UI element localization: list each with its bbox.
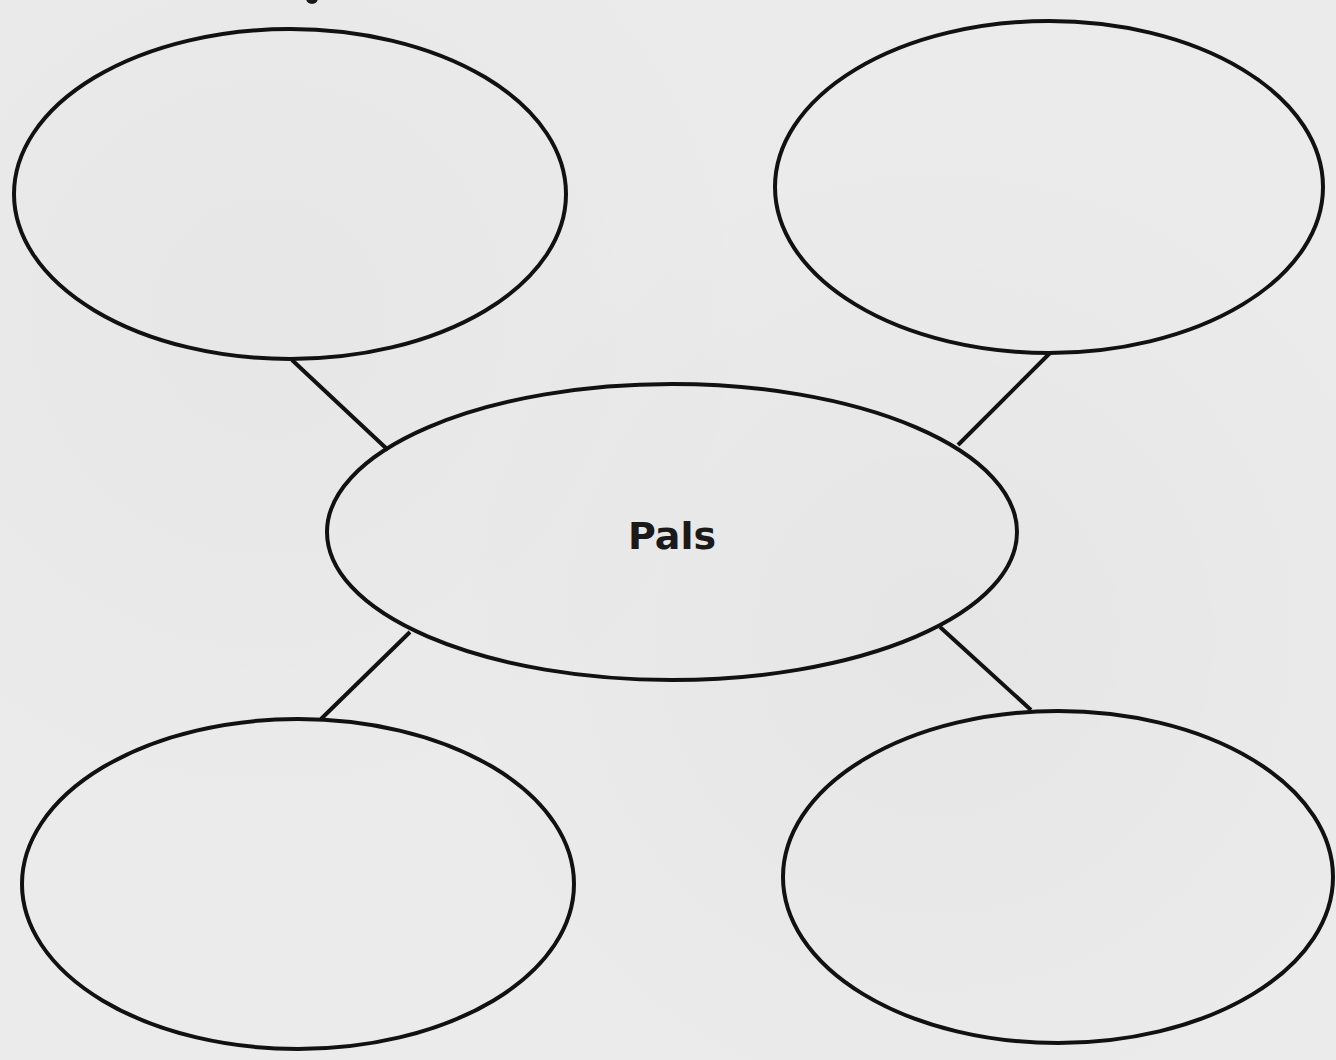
ellipse-bottom-left [22,719,574,1049]
connector-line-top-left [292,360,388,450]
ellipse-top-left [14,29,566,359]
connector-line-bottom-right [940,627,1031,710]
ellipse-top-right [775,21,1323,353]
connector-line-top-right [958,353,1050,445]
connector-line-bottom-left [321,632,410,719]
ellipse-bottom-right [783,711,1333,1043]
center-node-label: Pals [572,508,772,564]
